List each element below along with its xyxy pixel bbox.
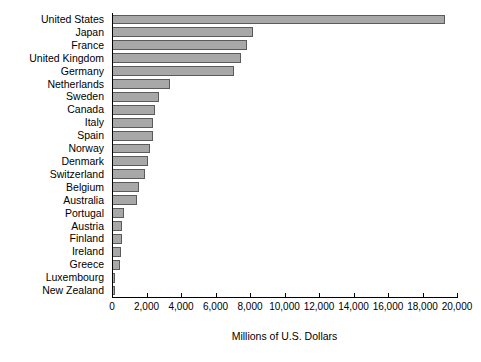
bar-row [112, 271, 457, 284]
category-label: New Zealand [0, 284, 108, 297]
category-label: Germany [0, 65, 108, 78]
bar [112, 27, 253, 37]
category-label: Canada [0, 103, 108, 116]
x-tick-mark [216, 293, 217, 298]
bar-row [112, 65, 457, 78]
bar-row [112, 52, 457, 65]
bar-row [112, 90, 457, 103]
bar [112, 40, 247, 50]
category-label: Austria [0, 220, 108, 233]
category-label: Luxembourg [0, 271, 108, 284]
x-tick-mark [319, 293, 320, 298]
category-label: United States [0, 13, 108, 26]
y-axis-line [112, 13, 113, 298]
x-tick-mark [423, 293, 424, 298]
bar-row [112, 39, 457, 52]
x-tick-mark [147, 293, 148, 298]
category-label: Denmark [0, 155, 108, 168]
bar [112, 105, 155, 115]
bar-row [112, 181, 457, 194]
category-label: Spain [0, 129, 108, 142]
bar [112, 156, 148, 166]
x-tick-label: 18,000 [407, 301, 438, 312]
bar-row [112, 142, 457, 155]
bar-row [112, 207, 457, 220]
bar-row [112, 220, 457, 233]
category-label: Switzerland [0, 168, 108, 181]
category-axis-labels: United StatesJapanFranceUnited KingdomGe… [0, 13, 108, 297]
bar-row [112, 155, 457, 168]
bar [112, 144, 150, 154]
category-label: Norway [0, 142, 108, 155]
category-label: United Kingdom [0, 52, 108, 65]
category-label: Japan [0, 26, 108, 39]
category-label: Greece [0, 258, 108, 271]
bar [112, 221, 122, 231]
category-label: Belgium [0, 181, 108, 194]
x-tick-label: 14,000 [338, 301, 369, 312]
bar-row [112, 13, 457, 26]
category-label: Italy [0, 116, 108, 129]
x-tick-mark [388, 293, 389, 298]
plot-area [112, 13, 457, 297]
x-tick-label: 4,000 [168, 301, 193, 312]
bar [112, 169, 145, 179]
bar-row [112, 245, 457, 258]
x-tick-label: 0 [109, 301, 115, 312]
bar [112, 195, 137, 205]
bar-chart: United StatesJapanFranceUnited KingdomGe… [0, 0, 481, 362]
bar-rows [112, 13, 457, 297]
category-label: Sweden [0, 90, 108, 103]
bar-row [112, 103, 457, 116]
x-tick-mark [112, 293, 113, 298]
category-label: Finland [0, 232, 108, 245]
bar [112, 79, 170, 89]
category-label: Netherlands [0, 78, 108, 91]
bar-row [112, 258, 457, 271]
bar [112, 182, 139, 192]
bar [112, 15, 445, 25]
bar [112, 131, 153, 141]
bar [112, 92, 159, 102]
bar-row [112, 129, 457, 142]
category-label: Portugal [0, 207, 108, 220]
x-tick-mark [250, 293, 251, 298]
x-tick-mark [457, 293, 458, 298]
category-label: Ireland [0, 245, 108, 258]
bar-row [112, 116, 457, 129]
x-tick-label: 16,000 [373, 301, 404, 312]
x-tick-mark [181, 293, 182, 298]
bar [112, 66, 234, 76]
category-label: Australia [0, 194, 108, 207]
x-tick-label: 6,000 [203, 301, 228, 312]
bar-row [112, 232, 457, 245]
bar [112, 53, 241, 63]
x-axis-ticks: 02,0004,0006,0008,00010,00012,00014,0001… [112, 297, 457, 327]
x-tick-label: 10,000 [269, 301, 300, 312]
x-tick-mark [285, 293, 286, 298]
bar-row [112, 26, 457, 39]
x-tick-label: 12,000 [304, 301, 335, 312]
bar-row [112, 194, 457, 207]
bar [112, 234, 122, 244]
x-tick-mark [354, 293, 355, 298]
bar [112, 260, 120, 270]
bar-row [112, 168, 457, 181]
bar [112, 118, 153, 128]
x-tick-label: 20,000 [442, 301, 473, 312]
x-tick-label: 2,000 [134, 301, 159, 312]
x-tick-label: 8,000 [237, 301, 262, 312]
bar [112, 208, 124, 218]
category-label: France [0, 39, 108, 52]
bar-row [112, 78, 457, 91]
x-axis-title: Millions of U.S. Dollars [112, 330, 457, 342]
bar [112, 247, 121, 257]
